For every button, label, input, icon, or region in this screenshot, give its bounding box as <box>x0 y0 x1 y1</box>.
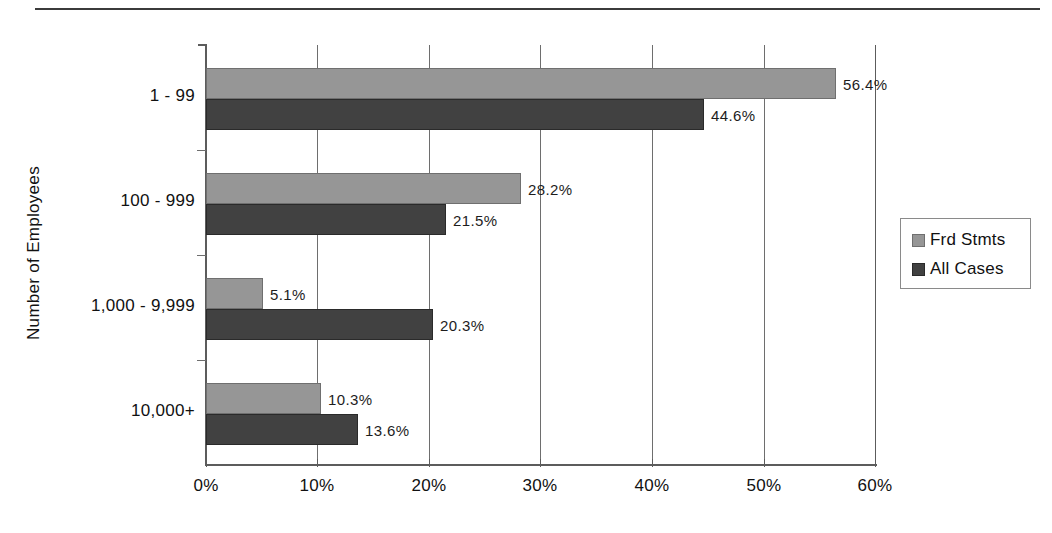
x-axis-label-20: 20% <box>394 476 464 496</box>
x-axis-tick-mark-30 <box>540 459 541 467</box>
x-axis-tick-mark-10 <box>317 459 318 467</box>
y-axis-tick-3 <box>197 360 206 361</box>
bar-1-99-frd-stmts[interactable] <box>206 68 836 99</box>
bar-label-100-999-all-cases: 21.5% <box>453 212 498 229</box>
bar-10000-plus-all-cases[interactable] <box>206 414 358 445</box>
bar-label-1-99-frd-stmts: 56.4% <box>843 76 888 93</box>
gridline-50 <box>764 45 765 464</box>
legend-item-frd-stmts[interactable]: Frd Stmts <box>912 230 1005 250</box>
bar-label-100-999-frd-stmts: 28.2% <box>528 181 573 198</box>
x-axis-tick-mark-50 <box>764 459 765 467</box>
x-axis-label-40: 40% <box>617 476 687 496</box>
legend-label-all-cases: All Cases <box>930 259 1004 279</box>
bar-100-999-frd-stmts[interactable] <box>206 173 521 204</box>
bar-1-99-all-cases[interactable] <box>206 99 704 130</box>
bar-label-10000-plus-frd-stmts: 10.3% <box>328 391 373 408</box>
x-axis-label-0: 0% <box>171 476 241 496</box>
category-label-100-999: 100 - 999 <box>20 191 195 211</box>
category-label-1-99: 1 - 99 <box>20 86 195 106</box>
bar-label-10000-plus-all-cases: 13.6% <box>365 422 410 439</box>
bar-label-1-99-all-cases: 44.6% <box>711 107 756 124</box>
legend-swatch-light-grey-icon <box>912 234 925 247</box>
x-axis-label-60: 60% <box>840 476 910 496</box>
x-axis-tick-mark-60 <box>875 459 876 467</box>
x-axis-line <box>205 464 877 466</box>
x-axis-tick-mark-40 <box>652 459 653 467</box>
category-label-10000-plus: 10,000+ <box>20 401 195 421</box>
legend-swatch-dark-grey-icon <box>912 263 925 276</box>
bar-100-999-all-cases[interactable] <box>206 204 446 235</box>
bar-1000-9999-frd-stmts[interactable] <box>206 278 263 309</box>
chart-page: Number of Employees 1 - 99 100 - 999 1,0… <box>0 0 1052 533</box>
x-axis-label-10: 10% <box>282 476 352 496</box>
category-label-1000-9999: 1,000 - 9,999 <box>20 296 195 316</box>
x-axis-label-50: 50% <box>729 476 799 496</box>
legend-item-all-cases[interactable]: All Cases <box>912 259 1004 279</box>
bar-label-1000-9999-frd-stmts: 5.1% <box>270 286 306 303</box>
chart-legend: Frd Stmts All Cases <box>900 218 1031 289</box>
y-axis-tick-1 <box>197 150 206 151</box>
x-axis-tick-mark-20 <box>429 459 430 467</box>
y-axis-tick-2 <box>197 255 206 256</box>
bar-1000-9999-all-cases[interactable] <box>206 309 433 340</box>
bar-label-1000-9999-all-cases: 20.3% <box>440 317 485 334</box>
y-axis-category-labels: 1 - 99 100 - 999 1,000 - 9,999 10,000+ <box>10 0 195 533</box>
legend-label-frd-stmts: Frd Stmts <box>930 230 1005 250</box>
gridline-60 <box>875 45 876 464</box>
bar-10000-plus-frd-stmts[interactable] <box>206 383 321 414</box>
x-axis-tick-mark-0 <box>206 459 207 467</box>
x-axis-label-30: 30% <box>505 476 575 496</box>
